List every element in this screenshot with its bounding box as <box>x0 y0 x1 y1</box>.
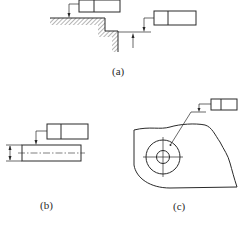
dimension-arrow-a <box>132 33 135 38</box>
leader-dot-c <box>170 144 172 146</box>
leader-arrow-b1 <box>35 140 38 145</box>
leader-line-a1 <box>69 4 79 15</box>
panel-label-a: (a) <box>112 65 125 78</box>
tolerance-diagram: (a) (b) <box>0 0 252 228</box>
dimension-arrow-b-top <box>9 146 12 151</box>
feature-control-frame-b1 <box>47 124 88 139</box>
panel-label-c: (c) <box>173 200 186 213</box>
feature-control-frame-a2 <box>154 11 196 25</box>
panel-label-b: (b) <box>40 199 53 212</box>
leader-arrow-c1 <box>198 108 201 112</box>
leader-line-a2 <box>144 18 154 29</box>
feature-control-frame-c1 <box>211 99 237 110</box>
panel-c: (c) <box>134 99 237 213</box>
leader-line-c1 <box>199 104 211 109</box>
panel-a: (a) <box>50 0 196 78</box>
leader-to-bore-c <box>171 112 191 144</box>
part-outline-c <box>134 124 237 188</box>
leader-line-b1 <box>36 131 47 142</box>
panel-b: (b) <box>6 124 88 212</box>
section-hatching <box>50 18 118 52</box>
dimension-arrow-b-bottom <box>9 156 12 161</box>
leader-arrow-a1 <box>68 13 71 18</box>
leader-arrow-a2 <box>143 27 146 32</box>
feature-control-frame-a1 <box>79 0 120 12</box>
